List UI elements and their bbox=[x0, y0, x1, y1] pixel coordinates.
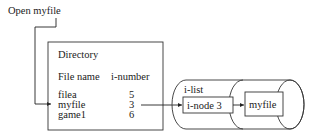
command-connector-arrow bbox=[35, 18, 56, 104]
row-name-game1: game1 bbox=[58, 109, 86, 120]
directory-title: Directory bbox=[58, 49, 99, 60]
inode-label: i-node 3 bbox=[187, 100, 222, 111]
command-label: Open myfile bbox=[8, 5, 61, 16]
filesystem-diagram: Open myfile Directory File name i-number… bbox=[0, 0, 316, 140]
row-inumber-game1: 6 bbox=[129, 109, 134, 120]
ilist-label: i-list bbox=[184, 84, 203, 95]
file-data-label: myfile bbox=[249, 99, 277, 110]
column-header-file-name: File name bbox=[58, 71, 100, 82]
column-header-i-number: i-number bbox=[111, 71, 150, 82]
